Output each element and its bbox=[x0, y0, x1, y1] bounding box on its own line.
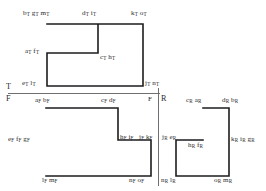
region-tag-r: R bbox=[161, 95, 166, 103]
vertex-label-r-n-l: nR lR bbox=[161, 177, 176, 184]
region-tag-f: F bbox=[6, 95, 11, 103]
region-tag-t: T bbox=[6, 83, 11, 91]
vertex-label-f-e-f-g: eF fF gF bbox=[8, 136, 30, 143]
vertex-label-r-c-a: cR aR bbox=[186, 97, 201, 104]
figure-svg bbox=[0, 0, 266, 191]
polygon-region-f bbox=[46, 108, 151, 176]
polygon-region-t bbox=[47, 24, 143, 86]
vertex-label-f-a-b: aF bF bbox=[35, 97, 50, 104]
vertex-label-r-o-m: oR mR bbox=[214, 177, 232, 184]
vertex-label-f-c-d: cF dF bbox=[101, 97, 116, 104]
vertex-label-t-b-g-m: bT gT mT bbox=[23, 10, 49, 17]
vertex-label-f-l-m: lF mF bbox=[42, 177, 57, 184]
vertex-label-t-e-l: eT lT bbox=[22, 80, 36, 87]
vertex-label-t-k-o: kT oT bbox=[131, 10, 147, 17]
vertex-label-t-c-h: cT hT bbox=[100, 54, 115, 61]
vertex-label-r-j-e: jR eR bbox=[162, 134, 176, 141]
vertex-label-r-h-f: hR fR bbox=[188, 142, 203, 149]
vertex-label-f-n-o: nF oF bbox=[129, 177, 144, 184]
vertex-label-r-k-i-g: kR iR gR bbox=[231, 136, 255, 143]
vertex-label-t-j-n: jT nT bbox=[145, 80, 159, 87]
vertex-label-t-a-f: aT fT bbox=[25, 48, 39, 55]
vertex-label-t-d-i: dT iT bbox=[82, 10, 96, 17]
vertex-label-f-h-i: hF iF bbox=[120, 134, 133, 141]
vertex-label-f-j-k: jF kF bbox=[139, 134, 152, 141]
vertex-label-f-corner: F bbox=[148, 96, 152, 103]
diagram-canvas: T F R bT gT mTdT iTkT oTaT fTcT hTeT lTj… bbox=[0, 0, 266, 191]
vertex-label-r-d-b: dR bR bbox=[222, 97, 238, 104]
